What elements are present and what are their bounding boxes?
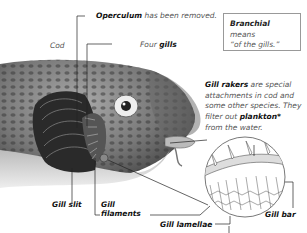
definition-box: Branchial means “of the gills.”	[223, 13, 301, 51]
label-cod: Cod	[50, 41, 65, 50]
magnified-gill-circle	[200, 137, 290, 217]
label-operculum: Operculum has been removed.	[96, 11, 217, 20]
gill-rakers-note: Gill rakers are special attachments in c…	[205, 80, 301, 133]
label-gill-bar: Gill bar	[265, 210, 296, 219]
label-gill-filaments: Gill filaments	[101, 200, 141, 218]
barbel	[175, 148, 182, 166]
label-gill-slit: Gill slit	[52, 200, 82, 209]
magnified-area-marker	[100, 154, 108, 162]
label-four-gills: Four gills	[140, 40, 177, 49]
label-gill-lamellae: Gill lamellae	[160, 220, 212, 229]
